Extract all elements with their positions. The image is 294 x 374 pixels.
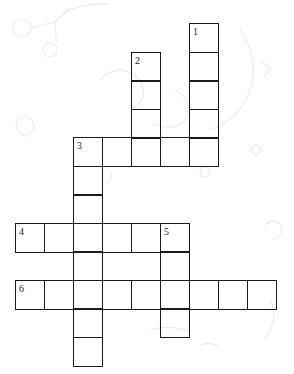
clue-number: 6 bbox=[19, 284, 24, 294]
crossword-cell[interactable] bbox=[44, 223, 74, 253]
crossword-cell[interactable]: 5 bbox=[160, 223, 190, 253]
crossword-cell[interactable] bbox=[73, 166, 103, 196]
crossword-cell[interactable] bbox=[131, 109, 161, 139]
crossword-cell[interactable] bbox=[160, 280, 190, 310]
crossword-cell[interactable] bbox=[160, 308, 190, 338]
crossword-cell[interactable]: 6 bbox=[15, 280, 45, 310]
crossword-cell[interactable] bbox=[189, 280, 219, 310]
crossword-cell[interactable]: 1 bbox=[189, 23, 219, 53]
crossword-grid: 123456 bbox=[0, 0, 294, 374]
crossword-cell[interactable]: 3 bbox=[73, 137, 103, 167]
crossword-cell[interactable] bbox=[160, 251, 190, 281]
crossword-cell[interactable] bbox=[102, 223, 132, 253]
crossword-cell[interactable] bbox=[218, 280, 248, 310]
crossword-cell[interactable] bbox=[131, 137, 161, 167]
crossword-cell[interactable] bbox=[189, 80, 219, 110]
crossword-cell[interactable] bbox=[189, 137, 219, 167]
crossword-cell[interactable] bbox=[73, 223, 103, 253]
clue-number: 3 bbox=[77, 141, 82, 151]
crossword-cell[interactable] bbox=[131, 80, 161, 110]
crossword-cell[interactable] bbox=[73, 337, 103, 367]
clue-number: 2 bbox=[135, 56, 140, 66]
crossword-cell[interactable] bbox=[102, 137, 132, 167]
crossword-cell[interactable] bbox=[189, 109, 219, 139]
crossword-cell[interactable]: 4 bbox=[15, 223, 45, 253]
crossword-cell[interactable]: 2 bbox=[131, 52, 161, 82]
clue-number: 1 bbox=[193, 27, 198, 37]
crossword-cell[interactable] bbox=[131, 223, 161, 253]
clue-number: 4 bbox=[19, 227, 24, 237]
crossword-cell[interactable] bbox=[160, 137, 190, 167]
crossword-cell[interactable] bbox=[73, 280, 103, 310]
crossword-cell[interactable] bbox=[189, 52, 219, 82]
crossword-cell[interactable] bbox=[73, 308, 103, 338]
crossword-cell[interactable] bbox=[131, 280, 161, 310]
crossword-cell[interactable] bbox=[44, 280, 74, 310]
crossword-cell[interactable] bbox=[73, 251, 103, 281]
clue-number: 5 bbox=[164, 227, 169, 237]
crossword-cell[interactable] bbox=[73, 194, 103, 224]
crossword-cell[interactable] bbox=[247, 280, 277, 310]
crossword-cell[interactable] bbox=[102, 280, 132, 310]
